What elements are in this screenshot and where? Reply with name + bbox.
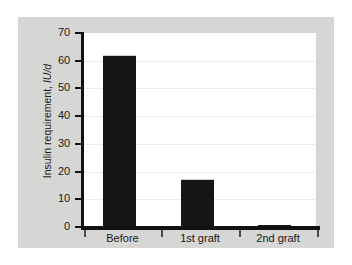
y-tick-10 <box>75 198 82 200</box>
y-axis-line <box>81 32 84 230</box>
y-axis-title-text: Insulin requirement, <box>41 83 53 178</box>
x-axis-line <box>81 226 320 230</box>
x-tick-label-before: Before <box>84 233 161 244</box>
y-tick-60 <box>75 60 82 62</box>
figure-panel: 70 60 50 40 30 20 10 0 Before 1st graft … <box>18 17 334 248</box>
y-axis-title: Insulin requirement, IU/d <box>41 41 53 201</box>
y-tick-50 <box>75 87 82 89</box>
y-tick-label-70: 70 <box>30 27 70 38</box>
plot-area <box>84 33 316 227</box>
y-tick-label-0: 0 <box>30 221 70 232</box>
bar-before[interactable] <box>103 55 136 227</box>
x-tick-label-2nd-graft: 2nd graft <box>239 233 317 244</box>
y-axis-title-unit: IU/d <box>41 64 53 83</box>
y-tick-70 <box>75 32 82 34</box>
y-tick-40 <box>75 115 82 117</box>
y-tick-0 <box>75 226 82 228</box>
y-tick-30 <box>75 143 82 145</box>
y-tick-20 <box>75 171 82 173</box>
x-tick-right <box>317 230 319 237</box>
x-tick-label-1st-graft: 1st graft <box>161 233 239 244</box>
bar-1st-graft[interactable] <box>181 179 214 228</box>
